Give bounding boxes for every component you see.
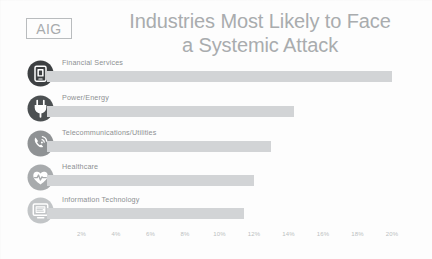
x-axis-tick-label: 4% (111, 231, 120, 237)
slide-canvas: AIG Industries Most Likely to Face a Sys… (0, 0, 432, 259)
category-label: Financial Services (62, 58, 123, 67)
x-axis-tick-label: 18% (351, 231, 364, 237)
chart-row: Healthcare (0, 161, 432, 195)
aig-logo: AIG (26, 18, 72, 39)
x-axis-tick-label: 16% (317, 231, 330, 237)
bar (47, 175, 254, 186)
bar (47, 106, 294, 117)
x-axis-tick-label: 20% (386, 231, 399, 237)
x-axis-tick-label: 8% (180, 231, 189, 237)
page-title: Industries Most Likely to Face a Systemi… (110, 10, 410, 57)
x-axis-tick-label: 6% (146, 231, 155, 237)
bar (47, 141, 271, 152)
chart-row: Power/Energy (0, 92, 432, 126)
chart-row: Financial Services (0, 57, 432, 91)
page-title-line-2: a Systemic Attack (110, 34, 410, 58)
chart-row: Information Technology (0, 194, 432, 228)
x-axis-tick-label: 14% (282, 231, 295, 237)
x-axis: 2%4%6%8%10%12%14%16%18%20% (0, 231, 432, 245)
bar (47, 208, 244, 219)
x-axis-tick-label: 12% (248, 231, 261, 237)
category-label: Information Technology (62, 195, 139, 204)
bar (47, 71, 392, 82)
bar-chart: Financial ServicesPower/EnergyTelecommun… (0, 57, 432, 229)
x-axis-tick-label: 2% (77, 231, 86, 237)
x-axis-tick-label: 10% (213, 231, 226, 237)
category-label: Power/Energy (62, 93, 109, 102)
category-label: Healthcare (62, 162, 98, 171)
category-label: Telecommunications/Utilities (62, 128, 156, 137)
chart-row: Telecommunications/Utilities (0, 127, 432, 161)
aig-logo-text: AIG (36, 22, 61, 36)
page-title-line-1: Industries Most Likely to Face (110, 10, 410, 34)
